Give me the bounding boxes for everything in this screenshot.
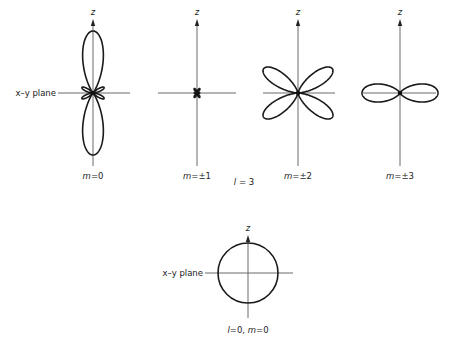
panel-m3: zm=±3 [362,7,438,181]
x-y-plane-label: x–y plane [162,268,203,278]
panel-m2: zm=±2 [263,7,335,181]
m-label-m3: m=±3 [386,171,414,181]
z-axis-label: z [295,7,301,17]
l3-label: l = 3 [234,177,254,187]
z-axis-label: z [245,223,251,233]
z-axis-label: z [90,7,96,17]
z-axis-label: z [194,7,200,17]
z-axis-arrow-icon [246,235,250,242]
panel-m1: zm=±1 [158,7,236,181]
z-axis-arrow-icon [91,19,95,26]
origin-dot [296,91,300,95]
z-axis-arrow-icon [398,19,402,26]
panel-m0: zm=0x–y plane [15,7,130,181]
z-axis-arrow-icon [195,19,199,26]
z-axis-label: z [397,7,403,17]
z-axis-arrow-icon [296,19,300,26]
m-label-m2: m=±2 [284,171,312,181]
l0-label: l=0, m=0 [227,325,268,335]
spherical-harmonics-figure: zm=0x–y planezm=±1zm=±2zm=±3l = 3zx–y pl… [0,0,451,344]
origin-dot [195,91,199,95]
x-y-plane-label: x–y plane [15,88,56,98]
m-label-m1: m=±1 [183,171,211,181]
panel-l0-m0: zx–y planel=0, m=0 [162,223,293,335]
origin-dot [91,91,95,95]
m-label-m0: m=0 [83,171,104,181]
origin-dot [398,91,402,95]
